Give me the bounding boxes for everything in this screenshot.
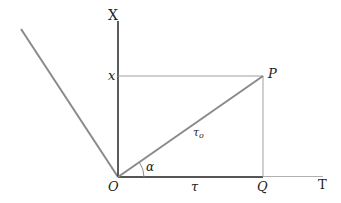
label-alpha: α xyxy=(146,160,154,174)
label-P: P xyxy=(267,66,277,81)
label-Q: Q xyxy=(257,179,268,194)
label-tau: τ xyxy=(191,179,199,194)
angle-alpha-arc xyxy=(139,162,144,177)
diagonal-o-to-p xyxy=(118,76,263,177)
label-tau0: τo xyxy=(193,126,204,140)
label-x: x xyxy=(108,68,116,83)
label-O: O xyxy=(108,179,119,194)
label-tau0-sub: o xyxy=(199,131,204,140)
diagram: X T x P O Q τ τo α xyxy=(0,0,341,203)
oblique-line xyxy=(21,29,118,177)
label-X-axis: X xyxy=(108,7,118,23)
label-T-axis: T xyxy=(318,177,327,192)
